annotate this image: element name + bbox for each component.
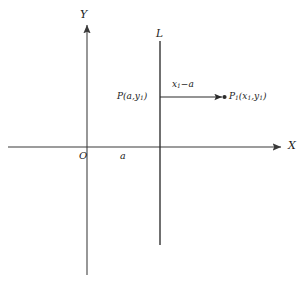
y-axis-label: Y <box>80 9 87 20</box>
segment-label-rest: −a <box>181 79 194 89</box>
x-tick-label-a: a <box>120 151 126 161</box>
coordinate-diagram: Y X L O a x1−a P(a,y1) P1(x1,y1) <box>0 0 304 283</box>
point-p-close: ) <box>144 91 148 101</box>
origin-label: O <box>79 151 87 161</box>
point-p-args: (a,y <box>123 91 140 101</box>
line-l-label: L <box>156 28 163 39</box>
point-p1-dot <box>222 95 226 99</box>
point-p1-close: ) <box>263 91 267 101</box>
segment-length-label: x1−a <box>172 80 194 89</box>
point-p1-label: P1(x1,y1) <box>229 92 266 101</box>
point-p1-comma: ,y <box>251 91 259 101</box>
point-p-label: P(a,y1) <box>117 92 147 101</box>
diagram-canvas <box>0 0 304 283</box>
x-axis-label: X <box>288 140 296 151</box>
